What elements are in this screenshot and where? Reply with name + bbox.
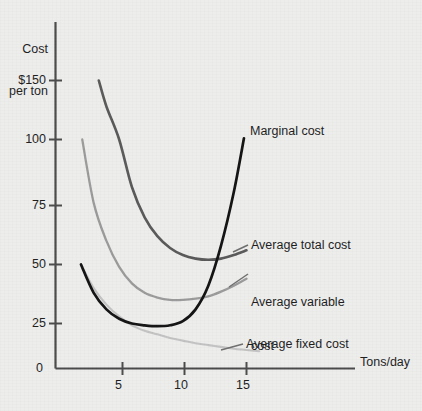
y-axis-title: Cost per ton <box>0 14 48 126</box>
y-tick-label-100: 100 <box>8 133 46 146</box>
label-leader-lines <box>221 245 248 350</box>
y-tick-label-150: $150 <box>8 74 46 87</box>
x-axis-title: Tons/day <box>360 355 410 369</box>
y-tick-label-50: 50 <box>8 258 46 271</box>
label-average-fixed-cost: Average fixed cost <box>246 337 349 352</box>
curve-average-fixed-cost <box>81 265 259 352</box>
label-average-variable-cost: Average variable cost <box>251 266 345 382</box>
y-tick-label-75: 75 <box>8 199 46 212</box>
plot-area <box>0 0 422 411</box>
y-axis-title-line1: Cost <box>0 42 48 56</box>
x-tick-label-5: 5 <box>115 379 122 392</box>
label-average-total-cost: Average total cost <box>251 238 351 253</box>
x-tick-label-10: 10 <box>174 379 188 392</box>
label-average-variable-cost-line1: Average variable <box>251 295 345 310</box>
x-tick-label-15: 15 <box>236 379 250 392</box>
label-marginal-cost: Marginal cost <box>250 124 324 139</box>
curve-average-variable-cost <box>82 140 246 301</box>
y-tick-label-25: 25 <box>8 317 46 330</box>
cost-curves-figure: Cost per ton Tons/day 0 $150 100 75 50 2… <box>0 0 422 411</box>
origin-label: 0 <box>36 362 43 375</box>
